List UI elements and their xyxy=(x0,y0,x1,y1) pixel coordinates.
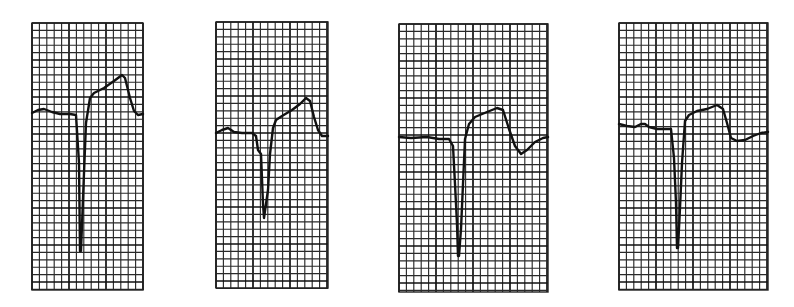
ecg-grid-and-trace-1 xyxy=(32,23,143,290)
ecg-strip-3 xyxy=(399,24,548,292)
ecg-grid-and-trace-4 xyxy=(619,23,768,290)
ecg-strip-4 xyxy=(619,23,768,290)
ecg-grid-and-trace-2 xyxy=(216,22,328,288)
ecg-grid-and-trace-3 xyxy=(399,24,548,292)
ecg-strip-1 xyxy=(32,23,143,290)
ecg-strip-2 xyxy=(216,22,328,288)
ecg-trace xyxy=(32,75,143,251)
